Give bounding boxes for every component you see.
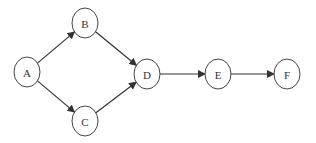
node-a: A — [14, 57, 40, 87]
node-d: D — [134, 59, 160, 89]
node-label: E — [215, 69, 222, 81]
node-label: D — [143, 69, 151, 81]
node-label: B — [81, 18, 88, 30]
graph-diagram: ABCDEF — [0, 0, 316, 143]
node-b: B — [72, 8, 98, 38]
edge-a-c — [38, 81, 75, 112]
node-f: F — [274, 59, 300, 89]
nodes-layer: ABCDEF — [14, 8, 300, 136]
node-label: A — [23, 67, 31, 79]
graph-canvas: ABCDEF — [0, 0, 316, 143]
node-label: C — [81, 116, 88, 128]
node-c: C — [72, 106, 98, 136]
node-label: F — [284, 69, 290, 81]
edge-b-d — [96, 32, 137, 66]
edge-c-d — [96, 82, 136, 113]
node-e: E — [205, 59, 231, 89]
edge-a-b — [38, 32, 75, 63]
